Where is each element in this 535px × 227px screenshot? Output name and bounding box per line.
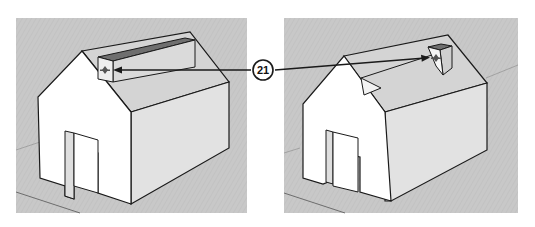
house-right — [284, 18, 518, 213]
door-opening — [74, 133, 98, 193]
door-jamb-2 — [326, 130, 333, 184]
house-left — [16, 18, 247, 213]
illustration — [0, 0, 535, 227]
callout-label: 21 — [253, 63, 273, 77]
door-opening-2 — [333, 132, 358, 192]
door-jamb — [65, 131, 74, 199]
